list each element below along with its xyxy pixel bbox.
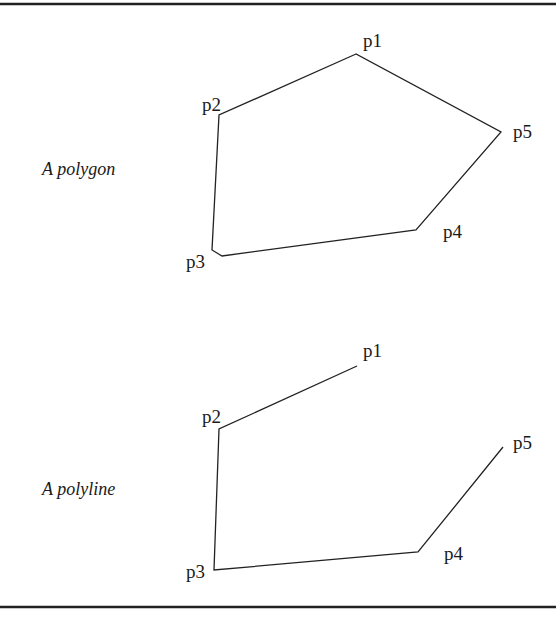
polyline-caption: A polyline [41, 479, 115, 499]
polyline-vertex-label-p2: p2 [202, 406, 221, 427]
polygon-vertex-label-p3: p3 [186, 251, 205, 272]
polyline-vertex-label-p4: p4 [444, 543, 464, 564]
polygon-vertex-label-p5: p5 [513, 121, 532, 142]
polygon-vertex-label-p2: p2 [202, 94, 221, 115]
polygon-figure: A polygon p1 p2 p3 p4 p5 [41, 30, 532, 272]
polygon-vertex-label-p1: p1 [363, 30, 382, 51]
polygon-caption: A polygon [41, 159, 115, 179]
polyline-vertex-label-p1: p1 [363, 340, 382, 361]
polyline-vertex-label-p5: p5 [513, 432, 532, 453]
polyline-shape [214, 366, 503, 570]
polygon-polyline-diagram: A polygon p1 p2 p3 p4 p5 A polyline p1 p… [0, 0, 556, 631]
polyline-vertex-label-p3: p3 [186, 561, 205, 582]
polygon-vertex-label-p4: p4 [443, 221, 463, 242]
polyline-figure: A polyline p1 p2 p3 p4 p5 [41, 340, 532, 582]
